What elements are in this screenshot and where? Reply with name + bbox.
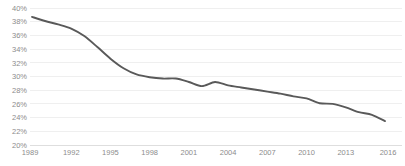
y-axis-tick-label: 36% bbox=[12, 31, 27, 40]
x-axis-tick-label: 1998 bbox=[141, 148, 158, 157]
gridlines-group bbox=[30, 8, 402, 145]
y-axis-tick-label: 30% bbox=[12, 72, 27, 81]
line-chart: 40%38%36%34%32%30%28%26%24%22%20% 198919… bbox=[0, 0, 405, 166]
y-axis-tick-label: 40% bbox=[12, 4, 27, 13]
y-axis-tick-label: 38% bbox=[12, 17, 27, 26]
x-axis-tick-label: 2004 bbox=[220, 148, 237, 157]
x-axis-tick-label: 2007 bbox=[259, 148, 276, 157]
series-group bbox=[32, 17, 385, 121]
y-axis-tick-labels: 40%38%36%34%32%30%28%26%24%22%20% bbox=[12, 4, 27, 150]
y-axis-tick-label: 22% bbox=[12, 127, 27, 136]
chart-plot-area: 40%38%36%34%32%30%28%26%24%22%20% 198919… bbox=[0, 0, 405, 166]
y-axis-tick-label: 24% bbox=[12, 113, 27, 122]
x-axis-tick-label: 2016 bbox=[380, 148, 397, 157]
x-axis-tick-labels: 1989199219951998200120042007201020132016 bbox=[22, 148, 397, 157]
y-axis-tick-label: 28% bbox=[12, 86, 27, 95]
series-line bbox=[32, 17, 385, 121]
x-axis-tick-label: 2001 bbox=[181, 148, 198, 157]
x-axis-tick-label: 1989 bbox=[22, 148, 39, 157]
y-axis-tick-label: 34% bbox=[12, 45, 27, 54]
x-axis-tick-label: 1992 bbox=[63, 148, 80, 157]
x-axis-tick-label: 2010 bbox=[298, 148, 315, 157]
x-axis-tick-label: 1995 bbox=[102, 148, 119, 157]
x-axis-tick-label: 2013 bbox=[337, 148, 354, 157]
y-axis-tick-label: 26% bbox=[12, 100, 27, 109]
y-axis-tick-label: 32% bbox=[12, 59, 27, 68]
